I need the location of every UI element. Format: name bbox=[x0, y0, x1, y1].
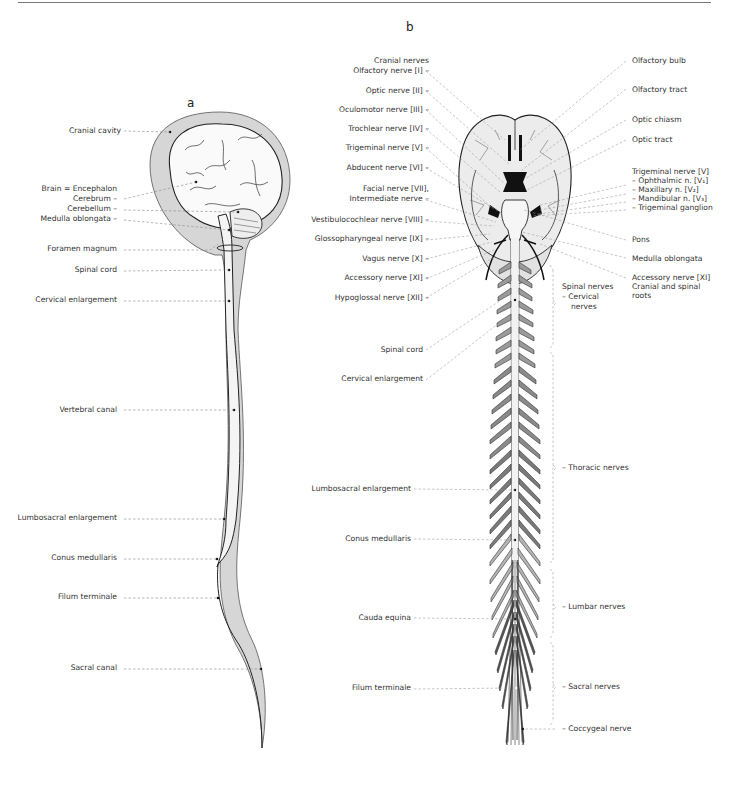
label-mandibular-nerve: – Mandibular n. [V₃] bbox=[632, 194, 707, 203]
label-spinal-cord-b: Spinal cord bbox=[381, 345, 423, 354]
label-lumbar-nerves: – Lumbar nerves bbox=[562, 602, 625, 611]
label-intermediate-nerve: Intermediate nerve – bbox=[350, 194, 429, 203]
label-ophthalmic-nerve: – Ophthalmic n. [V₁] bbox=[632, 176, 708, 185]
label-sacral-canal: Sacral canal bbox=[71, 663, 117, 672]
label-abducent-nerve: Abducent nerve [VI] – bbox=[347, 163, 429, 172]
label-cervical-nerves-1: – Cervical bbox=[562, 292, 599, 301]
panel-a-letter: a bbox=[187, 96, 194, 110]
label-conus-medullaris-b: Conus medullaris bbox=[345, 534, 411, 543]
label-spinal-cord-a: Spinal cord bbox=[75, 265, 117, 274]
label-medulla-oblongata-a: Medulla oblongata – bbox=[41, 214, 118, 223]
label-trigeminal-ganglion: – Trigeminal ganglion bbox=[632, 203, 713, 212]
label-optic-nerve: Optic nerve [II] – bbox=[366, 86, 429, 95]
label-cerebrum: Cerebrum – bbox=[73, 194, 117, 203]
panel-b-ventral bbox=[414, 61, 626, 745]
label-cranial-spinal-roots-1: Cranial and spinal bbox=[632, 282, 700, 291]
label-oculomotor-nerve: Oculomotor nerve [III] – bbox=[339, 105, 429, 114]
label-hypoglossal-nerve: Hypoglossal nerve [XII] – bbox=[335, 293, 429, 302]
label-spinal-nerves: Spinal nerves bbox=[562, 282, 613, 291]
label-cauda-equina: Cauda equina bbox=[358, 613, 411, 622]
label-brain: Brain = Encephalon bbox=[42, 184, 117, 193]
label-trigeminal-nerve-left: Trigeminal nerve [V] – bbox=[346, 143, 429, 152]
label-lumbosacral-enlargement-b: Lumbosacral enlargement bbox=[312, 484, 411, 493]
label-olfactory-bulb: Olfactory bulb bbox=[632, 56, 686, 65]
label-vertebral-canal: Vertebral canal bbox=[59, 405, 117, 414]
label-filum-terminale-a: Filum terminale bbox=[58, 592, 117, 601]
label-facial-nerve: Facial nerve [VII], bbox=[363, 184, 429, 193]
label-cerebellum: Cerebellum – bbox=[67, 204, 117, 213]
label-optic-chiasm: Optic chiasm bbox=[632, 115, 682, 124]
label-cervical-enlargement-b: Cervical enlargement bbox=[341, 374, 423, 383]
label-cervical-enlargement-a: Cervical enlargement bbox=[35, 295, 117, 304]
panel-b-letter: b bbox=[406, 20, 414, 34]
label-coccygeal-nerve: – Coccygeal nerve bbox=[562, 724, 631, 733]
label-cervical-nerves-2: nerves bbox=[571, 302, 597, 311]
label-accessory-nerve-left: Accessory nerve [XI] – bbox=[345, 273, 429, 282]
label-cranial-spinal-roots-2: roots bbox=[632, 291, 651, 300]
label-pons: Pons bbox=[632, 235, 650, 244]
label-thoracic-nerves: – Thoracic nerves bbox=[562, 463, 629, 472]
label-cranial-nerves: Cranial nerves bbox=[374, 56, 429, 65]
label-trigeminal-nerve-right: Trigeminal nerve [V] bbox=[632, 167, 709, 176]
label-accessory-nerve-right: Accessory nerve [XI] bbox=[632, 273, 710, 282]
label-olfactory-nerve: Olfactory nerve [I] – bbox=[353, 66, 429, 75]
label-vestibulocochlear-nerve: Vestibulocochlear nerve [VIII] – bbox=[311, 215, 429, 224]
label-foramen-magnum: Foramen magnum bbox=[47, 244, 117, 253]
label-optic-tract: Optic tract bbox=[632, 135, 672, 144]
label-sacral-nerves: – Sacral nerves bbox=[562, 682, 620, 691]
label-olfactory-tract: Olfactory tract bbox=[632, 85, 687, 94]
label-trochlear-nerve: Trochlear nerve [IV] – bbox=[348, 124, 429, 133]
label-filum-terminale-b: Filum terminale bbox=[352, 683, 411, 692]
label-maxillary-nerve: – Maxillary n. [V₂] bbox=[632, 185, 699, 194]
label-vagus-nerve: Vagus nerve [X] – bbox=[362, 254, 429, 263]
label-medulla-oblongata-b: Medulla oblongata bbox=[632, 254, 702, 263]
label-conus-medullaris-a: Conus medullaris bbox=[51, 553, 117, 562]
label-cranial-cavity: Cranial cavity bbox=[69, 126, 121, 135]
label-lumbosacral-enlargement-a: Lumbosacral enlargement bbox=[18, 513, 117, 522]
panel-a-sagittal bbox=[124, 112, 290, 748]
label-glossopharyngeal-nerve: Glossopharyngeal nerve [IX] – bbox=[315, 234, 429, 243]
